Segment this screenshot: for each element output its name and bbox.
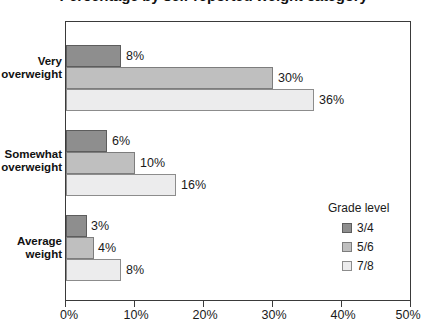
legend-label-3-4: 3/4 — [357, 221, 374, 235]
plot-area: 8% 30% 36% 6% 10% 16% 3% 4% 8% Grade lev… — [65, 21, 411, 301]
legend: Grade level 3/4 5/6 7/8 — [328, 201, 408, 278]
legend-item-3-4[interactable]: 3/4 — [328, 221, 408, 235]
bar-very-overweight-7-8[interactable] — [66, 89, 314, 111]
x-tick-label-0: 0% — [60, 308, 78, 322]
legend-swatch-icon-5-6 — [342, 242, 352, 252]
x-tick-label-10: 10% — [123, 308, 148, 322]
bar-value-average-weight-3-4: 3% — [91, 215, 109, 237]
x-tick-30 — [272, 301, 273, 307]
bar-somewhat-overweight-7-8[interactable] — [66, 174, 176, 196]
bar-value-somewhat-overweight-7-8: 16% — [181, 174, 206, 196]
bar-average-weight-5-6[interactable] — [66, 237, 94, 259]
bar-very-overweight-3-4[interactable] — [66, 45, 121, 67]
x-tick-0 — [65, 301, 66, 307]
legend-label-7-8: 7/8 — [357, 259, 374, 273]
bar-value-somewhat-overweight-5-6: 10% — [140, 152, 165, 174]
bar-value-average-weight-5-6: 4% — [98, 237, 116, 259]
x-tick-label-20: 20% — [192, 308, 217, 322]
category-axis-labels: Very overweight Somewhat overweight Aver… — [0, 0, 62, 331]
bar-value-very-overweight-5-6: 30% — [278, 67, 303, 89]
category-label-average-weight: Average weight — [0, 235, 62, 261]
x-tick-10 — [134, 301, 135, 307]
category-label-somewhat-overweight: Somewhat overweight — [0, 148, 62, 174]
bar-very-overweight-5-6[interactable] — [66, 67, 273, 89]
x-tick-50 — [410, 301, 411, 307]
bar-average-weight-7-8[interactable] — [66, 259, 121, 281]
bar-value-very-overweight-3-4: 8% — [126, 45, 144, 67]
category-label-very-overweight: Very overweight — [0, 55, 62, 81]
bar-average-weight-3-4[interactable] — [66, 215, 87, 237]
legend-item-7-8[interactable]: 7/8 — [328, 259, 408, 273]
bar-value-very-overweight-7-8: 36% — [319, 89, 344, 111]
legend-swatch-icon-3-4 — [342, 223, 352, 233]
legend-label-5-6: 5/6 — [357, 240, 374, 254]
x-tick-label-30: 30% — [261, 308, 286, 322]
bar-somewhat-overweight-3-4[interactable] — [66, 130, 107, 152]
x-axis-line — [65, 300, 411, 301]
legend-item-5-6[interactable]: 5/6 — [328, 240, 408, 254]
x-tick-20 — [203, 301, 204, 307]
x-tick-40 — [341, 301, 342, 307]
bar-value-somewhat-overweight-3-4: 6% — [112, 130, 130, 152]
bar-somewhat-overweight-5-6[interactable] — [66, 152, 135, 174]
legend-swatch-icon-7-8 — [342, 261, 352, 271]
x-tick-label-50: 50% — [395, 308, 420, 322]
bar-value-average-weight-7-8: 8% — [126, 259, 144, 281]
legend-title: Grade level — [328, 201, 408, 215]
chart-title: Percentage by self-reported weight categ… — [0, 0, 427, 4]
x-tick-label-40: 40% — [330, 308, 355, 322]
